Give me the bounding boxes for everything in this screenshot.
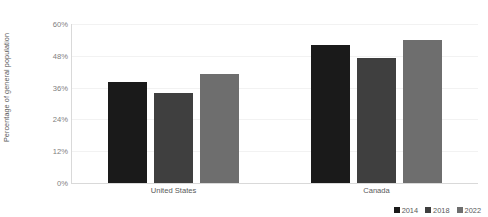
bar[interactable] [200,74,239,183]
y-axis-tick-label: 60% [34,20,68,29]
legend-swatch-icon [394,207,400,213]
legend-label: 2018 [433,207,449,214]
plot-area [72,24,478,183]
bar[interactable] [311,45,350,183]
bar[interactable] [154,93,193,183]
bar[interactable] [108,82,147,183]
legend-item[interactable]: 2022 [457,207,481,214]
bar[interactable] [403,40,442,183]
y-axis-tick-label: 48% [34,51,68,60]
y-axis-tick-label: 0% [34,179,68,188]
legend-item[interactable]: 2014 [394,207,418,214]
gridline [72,24,478,25]
legend-label: 2014 [402,207,418,214]
legend-swatch-icon [425,207,431,213]
y-axis-title: Percentage of general population [2,0,16,175]
legend: 201420182022 [394,207,481,214]
y-axis-tick-label: 12% [34,147,68,156]
y-axis-tick-label: 24% [34,115,68,124]
y-axis-tick-label: 36% [34,83,68,92]
legend-item[interactable]: 2018 [425,207,449,214]
bar[interactable] [357,58,396,183]
y-axis-tick-labels: 0%12%24%36%48%60% [28,24,68,183]
x-axis-category-label: United States [72,186,275,195]
axis-baseline [72,183,478,184]
bar-chart: Percentage of general population 0%12%24… [0,0,488,217]
legend-swatch-icon [457,207,463,213]
x-axis-category-label: Canada [275,186,478,195]
legend-label: 2022 [465,207,481,214]
